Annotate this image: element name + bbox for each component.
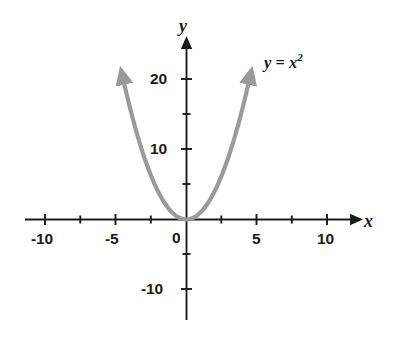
y-tick-label-neg10: -10	[141, 280, 163, 298]
coordinate-plane-svg	[0, 0, 396, 337]
x-tick-label-neg10: -10	[31, 230, 53, 248]
y-axis-label: y	[179, 16, 187, 37]
x-tick-label-10: 10	[317, 230, 334, 248]
y-tick-label-20: 20	[150, 70, 167, 88]
parabola-figure: -10 -5 0 5 10 20 10 -10 y x y = x2	[0, 0, 396, 337]
x-tick-label-origin: 0	[172, 229, 180, 247]
x-tick-label-neg5: -5	[105, 230, 118, 248]
equation-equals: =	[271, 53, 289, 72]
curve-equation-label: y = x2	[264, 51, 303, 73]
y-tick-label-10: 10	[150, 140, 167, 158]
y-axis	[181, 48, 192, 320]
x-axis-label: x	[364, 211, 373, 232]
equation-exponent: 2	[297, 51, 303, 63]
equation-base: x	[289, 53, 297, 72]
x-tick-label-5: 5	[252, 230, 260, 248]
